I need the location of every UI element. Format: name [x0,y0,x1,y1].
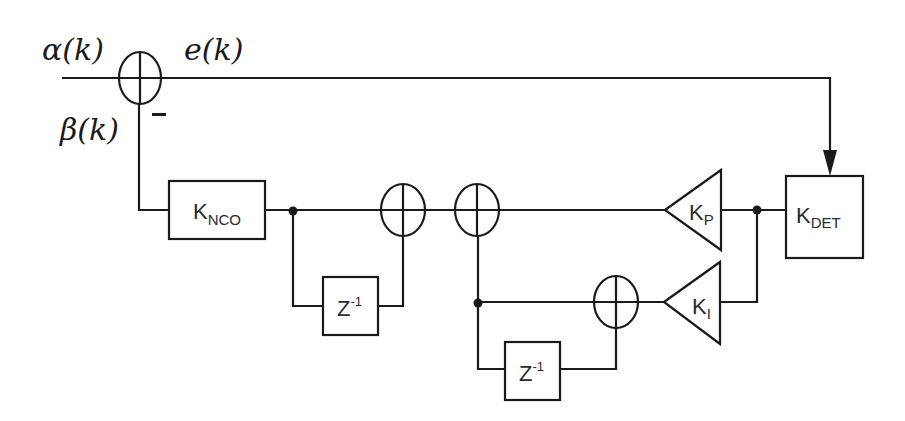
ki-gain-block: KI [664,262,720,344]
delay-block-1: Z-1 [323,277,378,335]
kp-gain-block: KP [665,170,721,250]
det-label: K [796,203,811,228]
kp-label: K [689,200,704,225]
det-subscript: DET [811,214,841,231]
feedback-signal-label: β(k) [59,112,119,147]
nco-label: K [193,199,208,224]
pll-block-diagram: KNCO Z-1 Z-1 KP KI [0,0,905,421]
delay1-label: Z [337,296,350,321]
nco-block: KNCO [169,181,265,239]
nco-subscript: NCO [208,211,241,228]
delay1-superscript: -1 [350,294,362,309]
feedback-path [139,104,169,210]
delay2-superscript: -1 [532,359,544,374]
arrow-down-icon [823,150,837,176]
error-signal-path [62,77,837,176]
minus-sign [152,113,166,116]
input-signal-label: α(k) [42,32,104,67]
kp-subscript: P [704,211,714,228]
error-signal-label: e(k) [184,32,243,67]
delay2-label: Z [519,361,532,386]
delay-block-2: Z-1 [505,342,560,400]
ki-subscript: I [707,305,711,322]
det-block: KDET [786,176,863,258]
ki-label: K [692,294,707,319]
